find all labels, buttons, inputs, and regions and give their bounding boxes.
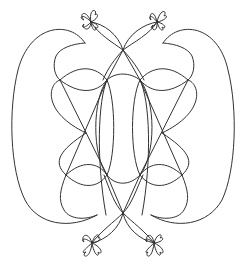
outer-hook-left <box>12 29 97 223</box>
cross-line-right-b <box>140 80 182 175</box>
flower-bottom-left-icon <box>82 235 101 256</box>
diamond-bottom-right <box>123 175 140 213</box>
vertical-lens-right <box>133 80 153 175</box>
flower-top-right-icon <box>150 11 167 30</box>
inner-hook-lower-right <box>151 133 189 218</box>
top-arc-left-outer <box>91 22 123 50</box>
flower-bottom-right-icon <box>146 235 163 256</box>
bottom-arc-left-inner <box>92 213 123 243</box>
inner-hook-upper-right <box>162 43 197 133</box>
ornament-figure <box>0 0 244 267</box>
top-bridge-arc <box>107 74 140 80</box>
top-arc-left-inner <box>91 22 123 50</box>
inner-hook-upper-left <box>51 43 86 133</box>
long-curve-left <box>99 80 107 215</box>
lens-upper-right <box>140 69 188 91</box>
long-curve-right <box>140 80 149 215</box>
vertical-lens-left <box>96 80 114 175</box>
bottom-bridge-arc <box>107 175 140 183</box>
ornament-svg <box>0 0 244 267</box>
bottom-arc-right-inner <box>123 213 154 243</box>
lens-upper-left <box>60 69 107 91</box>
diamond-curve-tr <box>123 50 144 80</box>
cross-line-left-b <box>66 80 107 175</box>
diamond-bottom-left <box>107 175 123 213</box>
flower-top-left-icon <box>81 10 98 30</box>
